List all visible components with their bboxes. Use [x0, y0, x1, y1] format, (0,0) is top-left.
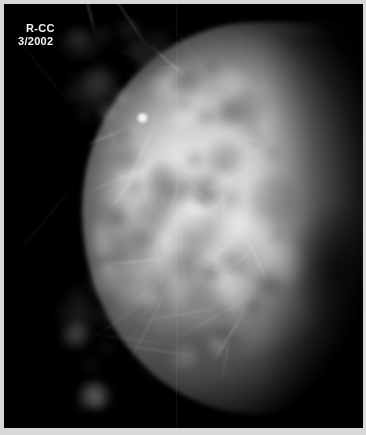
date-label: 3/2002 — [18, 35, 55, 48]
film-grain-overlay — [4, 4, 363, 428]
annotation-block: R-CC 3/2002 — [18, 22, 55, 48]
radiograph-plate: R-CC 3/2002 — [4, 4, 363, 428]
mammogram-viewer: R-CC 3/2002 — [0, 0, 366, 435]
view-label: R-CC — [18, 22, 55, 35]
